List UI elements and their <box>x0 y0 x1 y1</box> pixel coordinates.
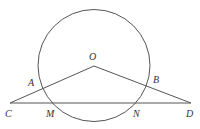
label-o: O <box>89 51 96 62</box>
label-d: D <box>185 108 194 119</box>
segment-od <box>94 66 191 103</box>
circle-o <box>38 10 150 122</box>
label-c: C <box>5 108 12 119</box>
label-n: N <box>132 108 141 119</box>
geometry-diagram: O A B C M N D <box>0 0 200 129</box>
label-m: M <box>45 108 55 119</box>
label-b: B <box>153 74 159 85</box>
label-a: A <box>27 77 35 88</box>
segment-oc <box>10 66 94 103</box>
